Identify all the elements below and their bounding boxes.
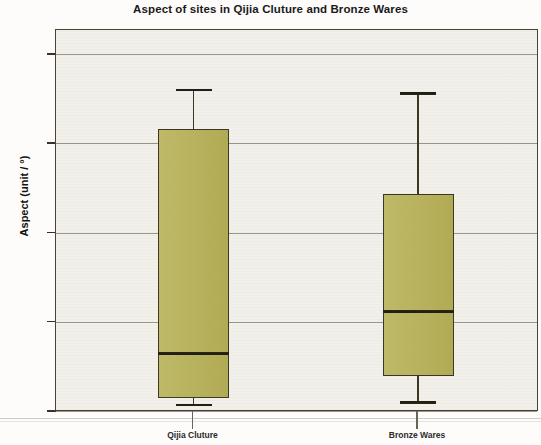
x-axis-tick-mark [192,411,194,429]
chart-figure: Aspect of sites in Qijia Cluture and Bro… [0,0,541,445]
box-plot [56,30,537,410]
whisker-upper [417,92,419,194]
plot-area [55,29,538,411]
scan-artifact-rule [0,418,541,419]
whisker-cap-upper [400,92,436,95]
scan-artifact-rule [0,421,541,422]
x-axis-tick-label: Qijia Cluture [118,430,268,440]
gridline [56,411,537,412]
y-axis-title: Aspect (unit / °) [18,116,30,276]
box-shading [384,195,453,375]
median-line [383,310,454,313]
whisker-cap-lower [400,401,436,404]
x-axis-tick-mark [416,411,418,429]
x-axis-tick-label: Bronze Wares [342,430,492,440]
whisker-lower [417,376,419,401]
box-iqr [383,194,454,376]
chart-title: Aspect of sites in Qijia Cluture and Bro… [0,3,541,15]
